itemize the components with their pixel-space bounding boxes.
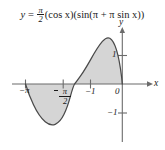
x-tick-label-neg-one: −1: [85, 87, 96, 96]
y-tick-label-neg-one: −1: [107, 108, 118, 117]
x-tick-label-origin: 0: [115, 87, 120, 96]
y-tick-label-one: 1: [112, 50, 117, 59]
plot-canvas: [0, 0, 165, 150]
x-axis-label: x: [154, 79, 158, 89]
half-pi-denominator: 2: [59, 96, 71, 106]
x-tick-label-neg-pi: −π: [19, 86, 30, 95]
y-axis-label: y: [119, 18, 123, 28]
half-pi-numerator: π: [59, 87, 71, 96]
y-axis-arrow: [120, 27, 125, 33]
x-tick-label-neg-half-pi: π 2: [59, 87, 71, 106]
x-axis-arrow: [147, 81, 153, 86]
minus-sign: [54, 90, 58, 91]
graph-figure: y = π2(cos x)(sin(π + π sin x)) −π π 2 −…: [0, 0, 165, 150]
